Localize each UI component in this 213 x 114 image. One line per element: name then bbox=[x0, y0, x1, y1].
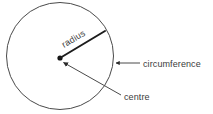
circle-diagram-svg: radius circumference centre bbox=[0, 0, 213, 114]
centre-label: centre bbox=[124, 92, 150, 102]
circle-diagram-container: radius circumference centre bbox=[0, 0, 213, 114]
radius-label: radius bbox=[60, 28, 87, 50]
circumference-label: circumference bbox=[143, 59, 201, 69]
radius-label-group: radius bbox=[60, 28, 87, 50]
